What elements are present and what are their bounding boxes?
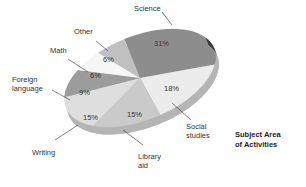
pct-library: 15% <box>127 110 142 119</box>
pct-writing: 15% <box>83 113 98 122</box>
pct-math: 6% <box>90 71 101 80</box>
pct-other: 6% <box>103 55 114 64</box>
label-foreign-language: Foreign language <box>12 75 43 93</box>
label-other: Other <box>74 27 93 36</box>
label-foreign-line2: language <box>12 84 43 93</box>
label-science: Science <box>134 4 161 13</box>
pct-science: 31% <box>154 39 169 48</box>
label-library-line2: aid <box>138 161 161 170</box>
label-social-studies: Social studies <box>186 122 210 140</box>
label-library-aid: Library aid <box>138 152 161 170</box>
pct-social: 18% <box>164 84 179 93</box>
label-math: Math <box>50 46 67 55</box>
label-social-line1: Social <box>186 122 210 131</box>
chart-title: Subject Area of Activities <box>235 130 281 150</box>
pct-foreign: 9% <box>79 88 90 97</box>
label-foreign-line1: Foreign <box>12 75 43 84</box>
label-library-line1: Library <box>138 152 161 161</box>
label-writing: Writing <box>32 148 55 157</box>
label-social-line2: studies <box>186 131 210 140</box>
chart-title-line1: Subject Area <box>235 130 281 140</box>
chart-title-line2: of Activities <box>235 140 281 150</box>
